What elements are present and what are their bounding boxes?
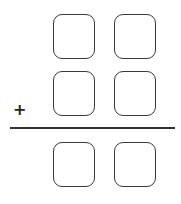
addend-1-ones-box[interactable] xyxy=(114,14,156,59)
plus-sign: + xyxy=(13,103,25,117)
addend-2-tens-box[interactable] xyxy=(53,71,95,116)
sum-divider-line xyxy=(10,127,175,129)
addend-1-tens-box[interactable] xyxy=(53,14,95,59)
addend-2-ones-box[interactable] xyxy=(114,71,156,116)
sum-ones-box[interactable] xyxy=(114,142,156,187)
sum-tens-box[interactable] xyxy=(53,142,95,187)
